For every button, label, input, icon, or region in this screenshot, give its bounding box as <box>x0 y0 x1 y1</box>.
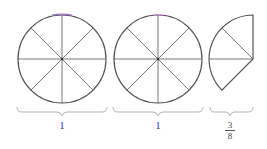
full-circle-2 <box>114 15 202 103</box>
label-fraction-three-eighths: 3 8 <box>222 120 238 141</box>
braces <box>17 107 253 116</box>
partial-circle-three-eighths <box>209 15 253 90</box>
fraction-numerator: 3 <box>228 120 233 130</box>
fraction-denominator: 8 <box>228 131 233 141</box>
label-whole-1: 1 <box>52 119 72 131</box>
label-whole-2: 1 <box>148 119 168 131</box>
full-circle-1 <box>18 14 106 103</box>
